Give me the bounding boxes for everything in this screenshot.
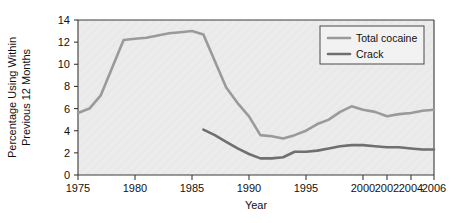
y-tick-label: 4: [64, 125, 70, 137]
y-axis-title-line2: Previous 12 Months: [20, 48, 32, 146]
legend-label-crack: Crack: [356, 48, 384, 60]
y-tick-label: 2: [64, 147, 70, 159]
y-tick-label: 14: [58, 14, 70, 26]
y-axis-title: Percentage Using WithinPrevious 12 Month…: [6, 37, 32, 158]
x-axis-ticks: 197519801985199019952000200220042006: [66, 175, 446, 194]
x-tick-label: 2004: [399, 182, 423, 194]
x-tick-label: 2006: [422, 182, 446, 194]
y-axis-ticks: 02468101214: [58, 14, 78, 181]
line-chart: 0246810121419751980198519901995200020022…: [0, 0, 466, 223]
x-axis-title: Year: [245, 199, 268, 211]
chart-figure: 0246810121419751980198519901995200020022…: [0, 0, 466, 223]
y-tick-label: 6: [64, 103, 70, 115]
x-tick-label: 2002: [375, 182, 399, 194]
legend: Total cocaineCrack: [320, 26, 424, 64]
y-tick-label: 0: [64, 169, 70, 181]
x-tick-label: 1980: [123, 182, 147, 194]
y-tick-label: 8: [64, 80, 70, 92]
legend-label-total-cocaine: Total cocaine: [356, 32, 417, 44]
x-tick-label: 1975: [66, 182, 90, 194]
x-tick-label: 1995: [294, 182, 318, 194]
x-tick-label: 2000: [351, 182, 375, 194]
y-tick-label: 10: [58, 58, 70, 70]
y-tick-label: 12: [58, 36, 70, 48]
x-tick-label: 1985: [180, 182, 204, 194]
y-axis-title-line1: Percentage Using Within: [6, 37, 18, 158]
x-tick-label: 1990: [237, 182, 261, 194]
